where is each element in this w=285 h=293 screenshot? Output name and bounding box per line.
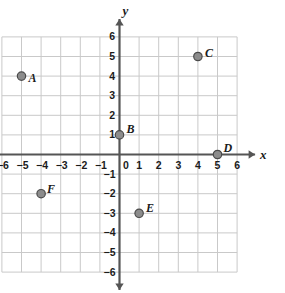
x-tick-label-5: 5 xyxy=(215,160,221,171)
y-tick-label-3: 3 xyxy=(109,90,115,101)
y-tick-label--3: −3 xyxy=(104,208,116,219)
y-tick-label--1: −1 xyxy=(104,169,116,180)
y-tick-label-2: 2 xyxy=(109,110,115,121)
x-tick-label--3: −3 xyxy=(56,160,68,171)
y-tick-label-1: 1 xyxy=(109,129,115,140)
y-tick-label-5: 5 xyxy=(109,51,115,62)
y-tick-label-6: 6 xyxy=(109,31,115,42)
point-label-d: D xyxy=(224,142,233,154)
y-axis-name-label: y xyxy=(123,4,129,17)
x-axis-name-label: x xyxy=(260,148,267,161)
data-point-c xyxy=(194,52,202,60)
y-tick-label--6: −6 xyxy=(104,267,116,278)
x-tick-label--5: −5 xyxy=(17,160,29,171)
y-tick-label--5: −5 xyxy=(104,247,116,258)
x-tick-label--2: −2 xyxy=(75,160,87,171)
coordinate-grid-svg xyxy=(0,0,285,293)
y-axis-arrow-down xyxy=(115,284,123,291)
data-point-a xyxy=(17,72,25,80)
point-label-c: C xyxy=(205,47,213,59)
x-tick-label-4: 4 xyxy=(195,160,201,171)
x-tick-label-0: 0 xyxy=(123,160,129,171)
y-tick-label--2: −2 xyxy=(104,188,116,199)
point-label-e: E xyxy=(146,202,154,214)
data-point-f xyxy=(37,190,45,198)
x-tick-label--6: −6 xyxy=(0,160,9,171)
data-point-e xyxy=(135,209,143,217)
x-tick-label-3: 3 xyxy=(175,160,181,171)
data-point-d xyxy=(213,150,221,158)
y-tick-label--4: −4 xyxy=(104,227,116,238)
y-tick-label-4: 4 xyxy=(109,71,115,82)
x-axis-arrow-right xyxy=(249,150,256,158)
x-tick-label-2: 2 xyxy=(156,160,162,171)
coordinate-plane-figure: −6−5−4−3−2−10123456654321−1−2−3−4−5−6yxA… xyxy=(0,0,285,293)
y-axis-arrow-up xyxy=(115,19,123,26)
point-label-a: A xyxy=(29,72,37,84)
x-tick-label-1: 1 xyxy=(136,160,142,171)
x-tick-label-6: 6 xyxy=(234,160,240,171)
x-tick-label--4: −4 xyxy=(36,160,48,171)
point-label-b: B xyxy=(127,123,135,135)
data-point-b xyxy=(115,131,123,139)
point-label-f: F xyxy=(47,183,55,195)
